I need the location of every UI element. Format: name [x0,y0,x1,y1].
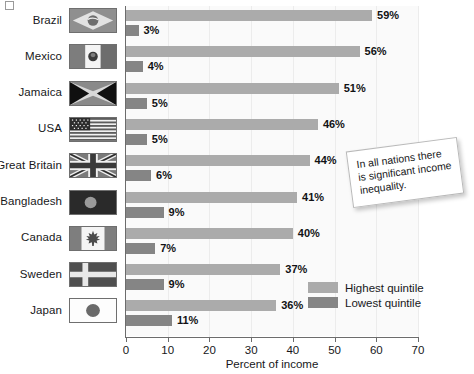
x-tick-50 [335,337,336,342]
bar-value-lowest-canada: 7% [160,243,176,254]
bar-value-highest-jamaica: 51% [344,83,366,94]
bar-value-highest-sweden: 37% [285,264,307,275]
x-tick-20 [209,337,210,342]
bar-value-highest-great-britain: 44% [315,155,337,166]
country-label-japan: Japan [0,304,62,316]
country-label-jamaica: Jamaica [0,86,62,98]
bar-value-lowest-japan: 11% [177,315,198,326]
bar-lowest-quintile-bangladesh [126,207,164,218]
country-label-usa: USA [0,122,62,134]
flag-brazil-icon [69,8,117,33]
x-tick-label-50: 50 [315,344,355,356]
chart-legend: Highest quintile Lowest quintile [308,281,424,311]
bar-value-lowest-great-britain: 6% [156,170,172,181]
x-tick-label-70: 70 [398,344,438,356]
legend-swatch-highest-quintile [308,282,338,293]
bar-lowest-quintile-great-britain [126,170,151,181]
country-label-mexico: Mexico [0,50,62,62]
legend-label-lowest-quintile: Lowest quintile [345,297,421,309]
x-tick-label-10: 10 [148,344,188,356]
country-label-great-britain: Great Britain [0,159,62,171]
flag-bangladesh-icon [69,190,117,215]
bar-highest-quintile-bangladesh [126,192,297,203]
flag-sweden-icon [69,262,117,287]
bar-highest-quintile-mexico [126,46,360,57]
bar-value-highest-mexico: 56% [365,46,387,57]
x-axis-line [125,337,419,338]
flag-mexico-icon [69,44,117,69]
x-tick-40 [293,337,294,342]
x-tick-30 [251,337,252,342]
bar-lowest-quintile-canada [126,243,155,254]
flag-jamaica-icon [69,81,117,106]
bar-value-highest-japan: 36% [281,300,303,311]
bar-lowest-quintile-usa [126,134,147,145]
bar-highest-quintile-canada [126,228,293,239]
legend-swatch-lowest-quintile [308,297,338,308]
bar-value-highest-usa: 46% [323,119,345,130]
bar-lowest-quintile-brazil [126,25,139,36]
flag-japan-icon [69,298,117,323]
x-tick-label-30: 30 [231,344,271,356]
bar-value-lowest-brazil: 3% [144,25,160,36]
bar-highest-quintile-great-britain [126,155,310,166]
bar-highest-quintile-usa [126,119,318,130]
bar-value-highest-bangladesh: 41% [302,192,324,203]
bar-value-highest-brazil: 59% [377,10,399,21]
income-inequality-bar-chart: BrazilMexicoJamaicaUSAGreat BritainBangl… [0,0,474,374]
country-label-bangladesh: Bangladesh [0,195,62,207]
bar-value-highest-canada: 40% [298,228,320,239]
x-tick-label-60: 60 [356,344,396,356]
bar-value-lowest-bangladesh: 9% [169,207,185,218]
country-label-brazil: Brazil [0,14,62,26]
scan-artifact [5,1,14,10]
bar-highest-quintile-japan [126,300,276,311]
legend-item-lowest-quintile: Lowest quintile [308,296,424,309]
x-tick-10 [168,337,169,342]
flag-great-britain-icon [69,153,117,178]
bar-highest-quintile-jamaica [126,83,339,94]
bar-value-lowest-jamaica: 5% [152,98,168,109]
y-axis-line [125,6,126,337]
x-axis-title: Percent of income [126,358,418,370]
legend-item-highest-quintile: Highest quintile [308,281,424,294]
bar-value-lowest-sweden: 9% [169,279,185,290]
flag-canada-icon [69,226,117,251]
x-tick-70 [418,337,419,342]
x-tick-label-0: 0 [106,344,146,356]
x-tick-60 [376,337,377,342]
country-label-sweden: Sweden [0,268,62,280]
country-label-canada: Canada [0,231,62,243]
bar-lowest-quintile-jamaica [126,98,147,109]
bar-highest-quintile-brazil [126,10,372,21]
bar-lowest-quintile-sweden [126,279,164,290]
x-tick-label-40: 40 [273,344,313,356]
x-tick-label-20: 20 [189,344,229,356]
legend-label-highest-quintile: Highest quintile [345,282,424,294]
flag-usa-icon [69,117,117,142]
x-tick-0 [126,337,127,342]
bar-lowest-quintile-japan [126,315,172,326]
bar-value-lowest-usa: 5% [152,134,168,145]
bar-value-lowest-mexico: 4% [148,61,164,72]
bar-lowest-quintile-mexico [126,61,143,72]
bar-highest-quintile-sweden [126,264,280,275]
